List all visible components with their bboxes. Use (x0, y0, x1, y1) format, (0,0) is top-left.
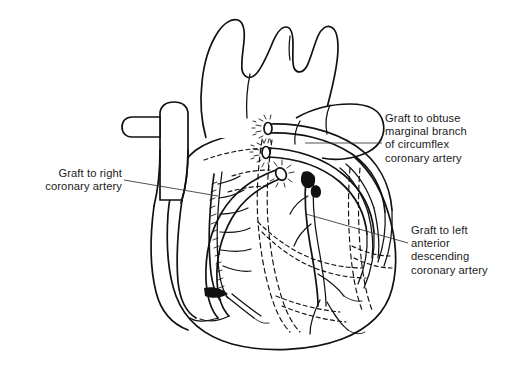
cabg-illustration-figure: .ln { fill:none; stroke:#111111; stroke-… (0, 0, 511, 368)
azygos-vein (122, 117, 160, 137)
label-graft-to-left-anterior-descending: Graft to left anterior descending corona… (411, 224, 511, 277)
ventricular-mass (167, 131, 395, 350)
label-graft-to-obtuse-marginal-branch: Graft to obtuse marginal branch of circu… (385, 112, 509, 165)
label-graft-to-right-coronary-artery: Graft to right coronary artery (18, 167, 122, 193)
